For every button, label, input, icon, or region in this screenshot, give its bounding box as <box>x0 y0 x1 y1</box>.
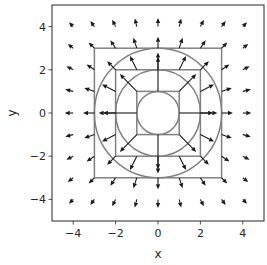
y-axis-label: y <box>5 109 19 116</box>
x-axis-ticks: −4−2024 <box>65 221 246 240</box>
x-tick-label: 0 <box>155 227 162 240</box>
y-tick-label: −2 <box>30 150 46 163</box>
y-tick-label: −4 <box>30 193 46 206</box>
x-tick-label: −2 <box>107 227 123 240</box>
x-tick-label: 4 <box>239 227 246 240</box>
y-tick-label: 0 <box>39 107 46 120</box>
x-tick-label: 2 <box>197 227 204 240</box>
y-axis-ticks: −4−2024 <box>30 21 52 207</box>
quiver-chart: −4−2024 −4−2024 x y <box>0 0 267 265</box>
x-axis-label: x <box>154 247 161 261</box>
y-tick-label: 4 <box>39 21 46 34</box>
x-tick-label: −4 <box>65 227 81 240</box>
y-tick-label: 2 <box>39 64 46 77</box>
